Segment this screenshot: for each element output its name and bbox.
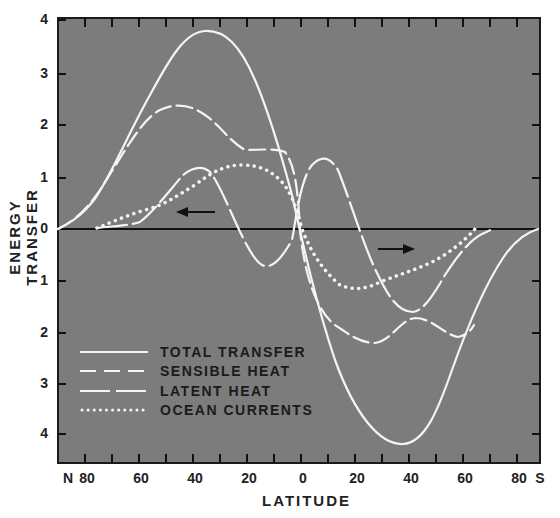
x-tick-80n: 80 [72, 470, 102, 486]
legend: TOTAL TRANSFER SENSIBLE HEAT LATENT HEAT… [80, 342, 313, 420]
legend-item-total-transfer: TOTAL TRANSFER [80, 342, 313, 362]
x-tick-S: S [525, 470, 555, 486]
legend-label: OCEAN CURRENTS [160, 402, 313, 418]
long-dash-line-swatch-icon [80, 389, 148, 393]
solid-line-swatch-icon [80, 350, 148, 354]
legend-label: SENSIBLE HEAT [160, 363, 290, 379]
x-tick-20n: 20 [234, 470, 264, 486]
x-tick-40n: 40 [180, 470, 210, 486]
x-axis-title: LATITUDE [262, 492, 351, 509]
x-tick-0: 0 [288, 470, 318, 486]
y-tick-3: 3 [28, 65, 48, 81]
dotted-line-swatch-icon [80, 408, 148, 412]
legend-label: LATENT HEAT [160, 383, 272, 399]
legend-label: TOTAL TRANSFER [160, 344, 306, 360]
x-tick-20s: 20 [342, 470, 372, 486]
y-tick-neg3: 3 [28, 375, 48, 391]
y-tick-neg2: 2 [28, 324, 48, 340]
x-tick-40s: 40 [396, 470, 426, 486]
x-tick-60n: 60 [126, 470, 156, 486]
x-tick-60s: 60 [450, 470, 480, 486]
y-axis-title: ENERGY TRANSFER [6, 162, 40, 312]
chart-svg [0, 0, 560, 518]
dashed-line-swatch-icon [80, 369, 148, 373]
y-tick-4: 4 [28, 11, 48, 27]
legend-item-sensible-heat: SENSIBLE HEAT [80, 362, 313, 382]
legend-item-ocean-currents: OCEAN CURRENTS [80, 401, 313, 421]
y-tick-neg4: 4 [28, 425, 48, 441]
y-tick-2: 2 [28, 116, 48, 132]
legend-item-latent-heat: LATENT HEAT [80, 381, 313, 401]
